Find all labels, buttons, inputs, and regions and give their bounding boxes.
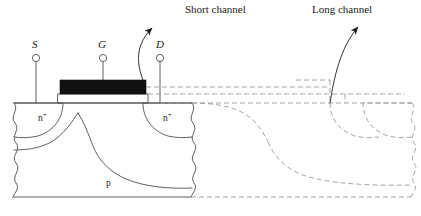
drain-terminal-node — [156, 54, 163, 61]
substrate-label: p — [106, 179, 111, 189]
source-nplus-superscript: + — [43, 111, 47, 119]
gate-electrode — [60, 80, 146, 94]
long-channel-source-depletion — [192, 103, 268, 142]
long-channel-drain-junction — [363, 103, 412, 138]
source-nplus-label: n+ — [38, 114, 47, 124]
drain-terminal-label: D — [156, 39, 164, 50]
drain-nplus-label: n+ — [163, 114, 172, 124]
drain-nplus-superscript: + — [168, 111, 172, 119]
long-channel-callout-label: Long channel — [312, 4, 372, 15]
short-channel-callout-label: Short channel — [185, 4, 246, 15]
mosfet-cross-section-figure: Short channel Long channel S G D n+ n+ p — [0, 0, 421, 216]
diagram-canvas — [0, 0, 421, 216]
gate-oxide-layer — [58, 94, 148, 103]
channel-depletion-peak — [78, 113, 192, 188]
gate-terminal-label: G — [98, 39, 106, 50]
gate-terminal-node — [99, 54, 106, 61]
long-channel-gate-edge-depletion — [330, 103, 379, 138]
terminal-nodes — [32, 54, 163, 61]
source-terminal-node — [32, 54, 39, 61]
long-channel-leader-line — [330, 27, 358, 103]
right-break-edge — [411, 103, 416, 197]
short-channel-leader-line — [139, 28, 153, 87]
long-channel-depletion-contour — [268, 142, 412, 185]
right-device-dashed-geometry — [146, 80, 416, 197]
source-terminal-label: S — [32, 39, 38, 50]
center-break-edge — [191, 103, 196, 197]
